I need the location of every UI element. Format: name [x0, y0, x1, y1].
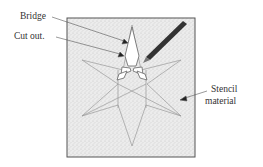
- cut-out-label: Cut out.: [14, 31, 45, 41]
- stencil-material-label-line2: material: [205, 96, 236, 106]
- bridge-label: Bridge: [20, 11, 46, 21]
- stencil-material-label-line1: Stencil: [211, 84, 237, 94]
